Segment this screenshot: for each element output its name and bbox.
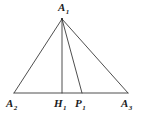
vertex-label-foot-cevian-subscript: 1 (82, 104, 86, 112)
vertex-label-apex: A1 (58, 2, 69, 16)
vertex-label-foot-cevian: P1 (75, 98, 86, 112)
vertex-label-base-right-subscript: 3 (128, 104, 132, 112)
vertex-label-apex-subscript: 1 (65, 8, 69, 16)
vertex-label-foot-altitude-base: H (54, 97, 63, 109)
side-A1-A2-line (14, 19, 62, 93)
vertex-label-foot-cevian-base: P (75, 97, 82, 109)
vertex-label-foot-altitude: H1 (54, 98, 67, 112)
geometry-figure: A1 A2 H1 P1 A3 (0, 0, 142, 122)
vertex-label-base-right: A3 (121, 98, 132, 112)
vertex-label-base-left: A2 (6, 98, 17, 112)
apex-vertex-dot (61, 18, 63, 20)
vertex-label-base-left-subscript: 2 (13, 104, 17, 112)
vertex-label-foot-altitude-subscript: 1 (63, 104, 67, 112)
